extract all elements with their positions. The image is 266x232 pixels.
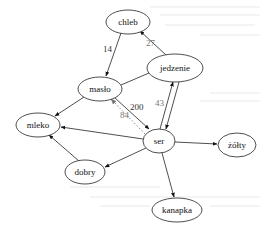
edge-jedzenie-maslo [121,73,149,85]
edge-label-ser-maslo: 84 [120,110,130,120]
edge-ser-mleko [61,127,143,139]
graph-canvas: 14 27 200 84 43 chleb jedzenie masło mle… [0,0,266,232]
node-label-jedzenie: jedzenie [159,63,190,73]
edge-chleb-maslo [106,33,121,76]
node-dobry[interactable]: dobry [65,160,105,184]
edge-ser-dobry [105,148,146,167]
node-ser[interactable]: ser [143,129,175,153]
edge-ser-kanapka [162,153,174,197]
node-kanapka[interactable]: kanapka [152,198,202,222]
edge-ser-zolty [175,142,217,144]
node-label-kanapka: kanapka [162,205,192,215]
node-jedzenie[interactable]: jedzenie [147,54,203,82]
node-label-maslo: masło [89,84,111,94]
node-zolty[interactable]: żółty [218,133,256,157]
node-maslo[interactable]: masło [78,77,122,101]
edge-maslo-mleko [55,97,84,116]
node-label-dobry: dobry [75,167,96,177]
node-label-ser: ser [154,136,165,146]
edge-jedzenie-ser [166,82,179,129]
node-mleko[interactable]: mleko [16,113,60,137]
node-chleb[interactable]: chleb [106,10,150,34]
edge-label-ser-jedzenie: 43 [155,98,165,108]
node-label-zolty: żółty [228,140,246,150]
node-label-chleb: chleb [118,17,138,27]
edge-label-chleb-maslo: 14 [103,44,113,54]
node-label-mleko: mleko [27,120,50,130]
edge-label-jedzenie-chleb: 27 [146,38,156,48]
edge-dobry-mleko [49,135,79,161]
edge-label-maslo-ser: 200 [130,102,144,112]
